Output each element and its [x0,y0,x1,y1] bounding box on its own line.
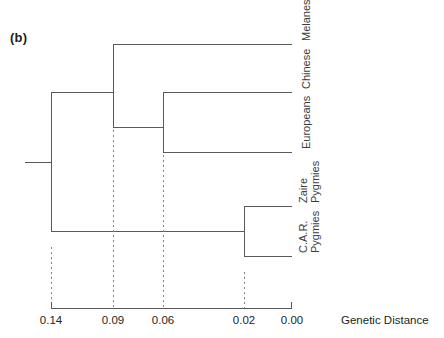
x-axis-title: Genetic Distance [341,314,429,326]
tick-label-014: 0.14 [40,314,62,326]
tip-label-melanesians: Melanesians [301,0,312,41]
tip-label-europeans: Europeans [301,96,312,149]
tick-label-002: 0.02 [233,314,255,326]
tip-label-zaire-pygmies: Zaire Pygmies [297,161,321,203]
tick-label-009: 0.09 [102,314,124,326]
tick-guide-lines [51,130,244,308]
tip-label-car-pygmies: C.A.R. Pygmies [297,211,321,253]
x-axis [51,302,292,309]
phylogenetic-tree-figure: (b) [0,0,444,338]
tick-label-006: 0.06 [152,314,174,326]
tree-diagram-canvas [0,0,444,338]
tick-label-000: 0.00 [281,314,303,326]
tip-label-chinese: Chinese [301,49,312,89]
tree-branches [25,44,292,256]
